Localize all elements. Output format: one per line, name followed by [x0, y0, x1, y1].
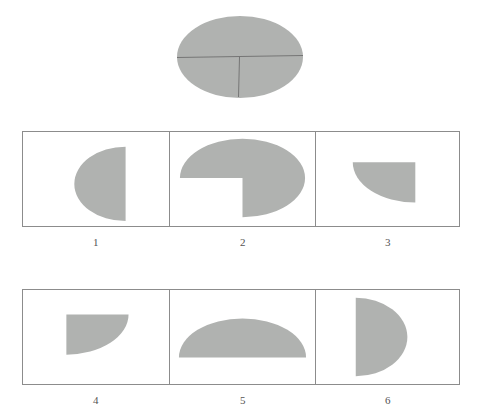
half-ellipse-left-icon — [23, 132, 169, 226]
row-spacer — [22, 249, 460, 289]
quarter-ellipse-upper-right-icon — [316, 132, 459, 226]
option-label-3: 3 — [316, 236, 460, 249]
option-cell-2[interactable] — [170, 131, 316, 227]
option-cell-3[interactable] — [316, 131, 460, 227]
option-label-1: 1 — [22, 236, 170, 249]
option-label-4: 4 — [22, 394, 170, 407]
option-label-2: 2 — [170, 236, 316, 249]
option-row-bottom — [22, 289, 460, 385]
quarter-ellipse-upper-left-icon — [23, 290, 169, 384]
ellipse-with-cut-lines-icon — [177, 16, 303, 98]
option-labels-top: 1 2 3 — [22, 236, 460, 249]
ellipse-with-quarter-notch-icon — [170, 132, 315, 226]
options-grid: 1 2 3 4 5 — [22, 131, 460, 407]
option-cell-1[interactable] — [22, 131, 170, 227]
option-cell-5[interactable] — [170, 289, 316, 385]
option-labels-bottom: 4 5 6 — [22, 394, 460, 407]
option-label-5: 5 — [170, 394, 316, 407]
half-ellipse-top-icon — [170, 290, 315, 384]
half-ellipse-right-icon — [316, 290, 459, 384]
prompt-figure — [177, 16, 303, 98]
option-row-top — [22, 131, 460, 227]
option-cell-6[interactable] — [316, 289, 460, 385]
option-label-6: 6 — [316, 394, 460, 407]
option-cell-4[interactable] — [22, 289, 170, 385]
